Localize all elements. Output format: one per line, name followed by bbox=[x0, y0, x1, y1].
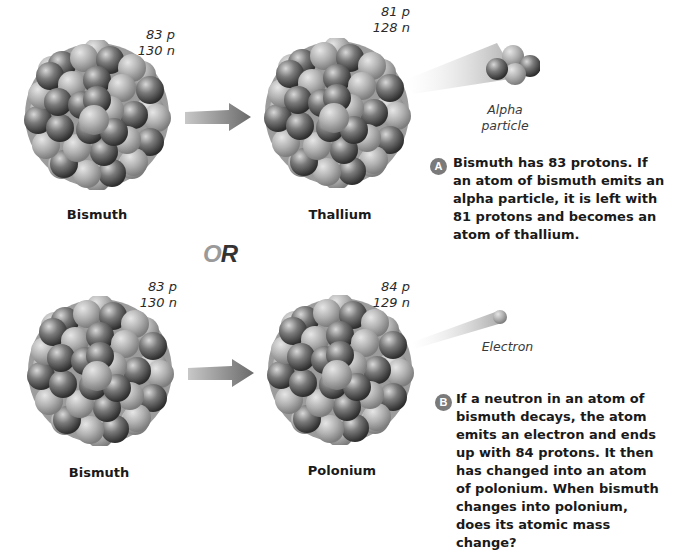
polonium-nucleus bbox=[265, 295, 415, 445]
or-letter-o: O bbox=[203, 240, 221, 267]
alpha-particle-label: Alpha particle bbox=[470, 102, 540, 134]
polonium-neutrons: 129 n bbox=[365, 295, 410, 311]
bismuth-nucleus-b bbox=[25, 296, 175, 446]
polonium-counts: 84 p 129 n bbox=[365, 279, 410, 311]
bismuth-b-protons: 83 p bbox=[130, 279, 177, 295]
polonium-label: Polonium bbox=[282, 463, 402, 478]
badge-a: A bbox=[430, 158, 447, 175]
alpha-particle-icon bbox=[405, 38, 540, 100]
bismuth-a-label: Bismuth bbox=[37, 207, 157, 222]
thallium-nucleus bbox=[262, 38, 412, 188]
badge-b: B bbox=[435, 394, 452, 411]
alpha-label-line2: particle bbox=[470, 118, 540, 134]
bismuth-b-counts: 83 p 130 n bbox=[130, 279, 177, 311]
bismuth-a-protons: 83 p bbox=[130, 27, 175, 43]
or-separator: OR bbox=[203, 240, 237, 268]
bismuth-a-counts: 83 p 130 n bbox=[130, 27, 175, 59]
thallium-counts: 81 p 128 n bbox=[365, 4, 410, 36]
caption-a: Bismuth has 83 protons. If an atom of bi… bbox=[453, 154, 668, 244]
bismuth-nucleus-a bbox=[22, 40, 172, 190]
polonium-protons: 84 p bbox=[365, 279, 410, 295]
bismuth-b-label: Bismuth bbox=[39, 465, 159, 480]
thallium-neutrons: 128 n bbox=[365, 20, 410, 36]
alpha-label-line1: Alpha bbox=[470, 102, 540, 118]
electron-label: Electron bbox=[470, 339, 545, 355]
reaction-arrow-a-icon bbox=[185, 103, 251, 133]
reaction-arrow-b-icon bbox=[188, 359, 254, 389]
bismuth-b-neutrons: 130 n bbox=[130, 295, 177, 311]
bismuth-a-neutrons: 130 n bbox=[130, 43, 175, 59]
or-letter-r: R bbox=[221, 240, 237, 267]
thallium-protons: 81 p bbox=[365, 4, 410, 20]
caption-b: If a neutron in an atom of bismuth decay… bbox=[456, 390, 661, 552]
thallium-label: Thallium bbox=[280, 207, 400, 222]
